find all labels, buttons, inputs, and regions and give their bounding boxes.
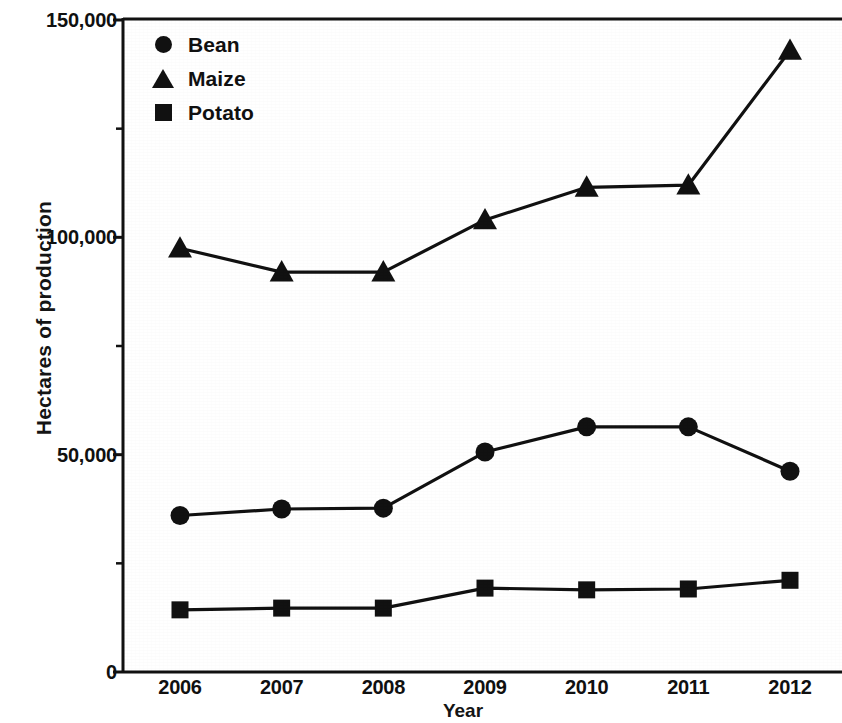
data-point-bean-2006 bbox=[171, 506, 190, 525]
legend-item-bean: Bean bbox=[150, 30, 254, 59]
data-point-potato-2007 bbox=[273, 600, 290, 617]
data-point-maize-2006 bbox=[168, 236, 192, 257]
x-axis-tick-label: 2011 bbox=[643, 676, 733, 699]
data-point-bean-2011 bbox=[679, 417, 698, 436]
legend-label: Maize bbox=[188, 67, 246, 91]
legend-item-maize: Maize bbox=[150, 64, 254, 93]
x-axis-tick-label: 2006 bbox=[135, 676, 225, 699]
x-axis-tick-label: 2012 bbox=[745, 676, 835, 699]
x-axis-tick-label: 2008 bbox=[338, 676, 428, 699]
chart-legend: BeanMaizePotato bbox=[150, 30, 254, 127]
data-point-potato-2011 bbox=[680, 580, 697, 597]
x-axis-title: Year bbox=[123, 700, 803, 722]
plot-area bbox=[0, 0, 842, 723]
series-line-maize bbox=[180, 50, 790, 272]
data-series-group bbox=[168, 38, 802, 618]
data-point-potato-2008 bbox=[375, 600, 392, 617]
square-marker-icon bbox=[150, 102, 176, 124]
series-maize bbox=[168, 38, 802, 281]
data-point-maize-2012 bbox=[778, 38, 802, 59]
legend-label: Potato bbox=[188, 101, 254, 125]
data-point-bean-2007 bbox=[272, 500, 291, 519]
series-potato bbox=[172, 572, 799, 619]
series-bean bbox=[171, 417, 800, 525]
legend-label: Bean bbox=[188, 33, 240, 57]
triangle-marker-icon bbox=[150, 68, 176, 90]
square-marker-glyph bbox=[155, 104, 172, 121]
data-point-bean-2008 bbox=[374, 499, 393, 518]
x-axis-tick-label: 2010 bbox=[542, 676, 632, 699]
data-point-potato-2010 bbox=[578, 581, 595, 598]
legend-item-potato: Potato bbox=[150, 98, 254, 127]
circle-marker-icon bbox=[150, 34, 176, 56]
x-axis-tick-label: 2007 bbox=[237, 676, 327, 699]
series-line-bean bbox=[180, 427, 790, 516]
data-point-bean-2009 bbox=[476, 443, 495, 462]
data-point-bean-2012 bbox=[781, 462, 800, 481]
data-point-potato-2006 bbox=[172, 601, 189, 618]
triangle-marker-glyph bbox=[152, 69, 174, 88]
data-point-potato-2009 bbox=[477, 580, 494, 597]
circle-marker-glyph bbox=[155, 36, 172, 53]
data-point-potato-2012 bbox=[782, 572, 799, 589]
x-axis-tick-label: 2009 bbox=[440, 676, 530, 699]
data-point-bean-2010 bbox=[577, 417, 596, 436]
line-chart-figure: Hectares of production 150,000100,00050,… bbox=[0, 0, 842, 723]
